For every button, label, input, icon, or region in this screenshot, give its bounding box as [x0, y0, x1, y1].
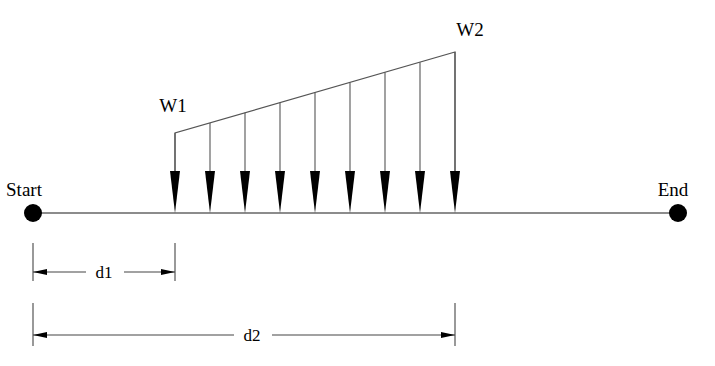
- dimension-d1: d1: [33, 243, 175, 282]
- end-node-marker: [669, 204, 687, 222]
- load-diagram-figure: d1 d2 Start End W1 W2: [0, 0, 715, 366]
- load-arrow-head: [310, 171, 320, 213]
- load-arrow-group: [170, 52, 460, 213]
- load-arrow-head: [205, 171, 215, 213]
- load-right-label: W2: [456, 19, 483, 40]
- load-arrow-head: [170, 171, 180, 213]
- start-node-marker: [24, 204, 42, 222]
- start-label: Start: [6, 179, 43, 200]
- load-arrow-head: [240, 171, 250, 213]
- end-label: End: [658, 179, 689, 200]
- d1-arrowhead-left: [33, 269, 47, 275]
- d2-label: d2: [244, 326, 261, 345]
- d2-arrowhead-left: [33, 332, 47, 338]
- load-arrow-head: [275, 171, 285, 213]
- diagram-canvas: d1 d2 Start End W1 W2: [0, 0, 715, 366]
- d1-label: d1: [96, 263, 113, 282]
- load-arrow-head: [380, 171, 390, 213]
- dimension-d2: d2: [33, 303, 455, 346]
- load-arrow-head: [345, 171, 355, 213]
- load-arrow-head: [450, 171, 460, 213]
- d2-arrowhead-right: [441, 332, 455, 338]
- load-arrow-head: [415, 171, 425, 213]
- d1-arrowhead-right: [161, 269, 175, 275]
- load-left-label: W1: [159, 95, 186, 116]
